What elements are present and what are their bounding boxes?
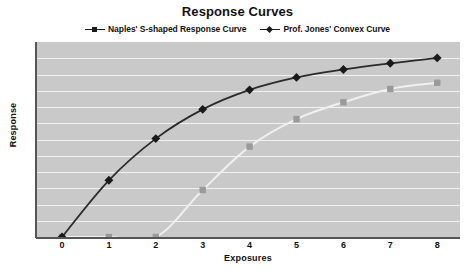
diamond-marker-icon <box>260 24 280 34</box>
y-axis-title: Response <box>8 90 18 160</box>
x-tick-label: 5 <box>287 240 307 250</box>
series-layer <box>36 42 460 237</box>
x-tick-label: 2 <box>146 240 166 250</box>
square-marker-icon <box>85 24 105 34</box>
response-curves-chart: Response Curves Naples' S-shaped Respons… <box>0 0 475 276</box>
plot-area <box>36 42 460 237</box>
square-marker-icon <box>293 116 299 122</box>
legend-label-naples: Naples' S-shaped Response Curve <box>108 24 246 34</box>
x-tick-label: 4 <box>240 240 260 250</box>
x-tick-label: 0 <box>52 240 72 250</box>
x-tick-label: 6 <box>333 240 353 250</box>
y-axis-line <box>35 42 37 238</box>
x-tick-label: 7 <box>380 240 400 250</box>
diamond-marker-icon <box>245 85 254 94</box>
series-line <box>62 83 437 237</box>
diamond-marker-icon <box>433 54 442 63</box>
legend-label-jones: Prof. Jones' Convex Curve <box>283 24 390 34</box>
legend-entry-jones: Prof. Jones' Convex Curve <box>260 24 390 34</box>
square-marker-icon <box>200 187 206 193</box>
square-marker-icon <box>434 80 440 86</box>
x-tick-label: 8 <box>427 240 447 250</box>
square-marker-icon <box>246 143 252 149</box>
diamond-marker-icon <box>386 59 395 68</box>
x-axis-line <box>36 237 460 239</box>
square-marker-icon <box>340 99 346 105</box>
x-axis-title: Exposures <box>36 253 460 263</box>
x-tick-label: 1 <box>99 240 119 250</box>
chart-title: Response Curves <box>0 4 475 19</box>
diamond-marker-icon <box>292 73 301 82</box>
chart-legend: Naples' S-shaped Response Curve Prof. Jo… <box>0 24 475 34</box>
square-marker-icon <box>387 86 393 92</box>
x-tick-label: 3 <box>193 240 213 250</box>
diamond-marker-icon <box>198 105 207 114</box>
legend-entry-naples: Naples' S-shaped Response Curve <box>85 24 246 34</box>
diamond-marker-icon <box>339 65 348 74</box>
